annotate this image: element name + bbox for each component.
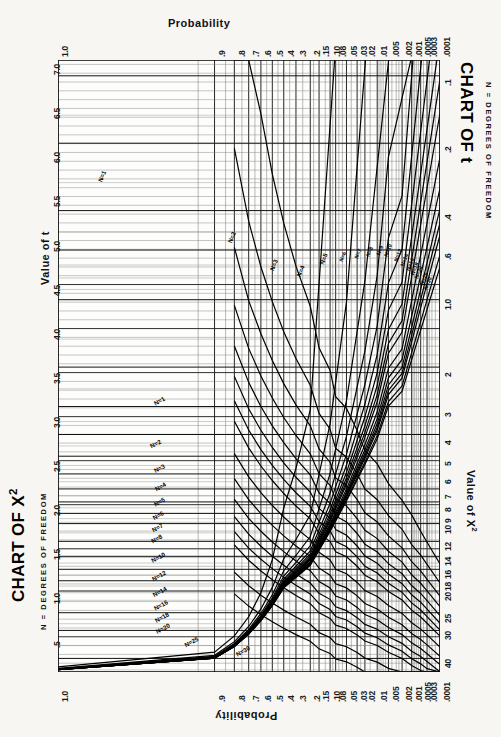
chisq-value-tick-3: .6: [444, 254, 453, 261]
t-value-tick-13: .5: [53, 641, 62, 648]
chisq-value-tick-15: 14: [444, 557, 453, 566]
grid-and-curves: N=1N=2N=3N=4N=5N=6N=7N=8N=9N=10N=12N=14N…: [58, 60, 440, 672]
chisq-value-tick-12: 9: [444, 519, 453, 523]
chisq-value-tick-4: 1.0: [444, 299, 453, 310]
chisq-probability-tick-3: .001: [415, 687, 424, 702]
chart-chisq-title-exponent: 2: [7, 488, 19, 495]
chisq-value-tick-17: 18: [444, 582, 453, 591]
t-probability-tick-6: .4: [287, 51, 296, 58]
chisq-probability-tick-13: .2: [313, 696, 322, 703]
t-probability-tick-3: .7: [252, 51, 261, 58]
t-value-tick-4: 5.0: [53, 241, 62, 252]
chisq-value-tick-5: 2: [444, 373, 453, 377]
chart-chisq-subtitle: N = DEGREES OF FREEDOM: [40, 492, 48, 630]
nomogram-page: N=1N=2N=3N=4N=5N=6N=7N=8N=9N=10N=12N=14N…: [0, 0, 501, 737]
chisq-value-axis-title-base: Value of X: [465, 470, 477, 528]
chisq-value-tick-18: 20: [444, 592, 453, 601]
chisq-value-axis-title: Value of X2: [465, 470, 478, 532]
t-probability-tick-17: .002: [405, 42, 414, 57]
t-probability-tick-11: .08: [339, 46, 348, 57]
t-value-tick-8: 3.0: [53, 417, 62, 428]
chart-t-title: CHART OF t: [458, 62, 475, 163]
chisq-probability-tick-2: .0005: [424, 682, 433, 702]
t-value-tick-6: 4.0: [53, 329, 62, 340]
t-probability-tick-9: .15: [322, 46, 331, 57]
chisq-probability-tick-4: .002: [405, 687, 414, 702]
chisq-probability-tick-20: .9: [218, 696, 227, 703]
chisq-value-tick-10: 7: [444, 494, 453, 498]
plot-area: N=1N=2N=3N=4N=5N=6N=7N=8N=9N=10N=12N=14N…: [58, 60, 440, 672]
chisq-probability-tick-11: .10: [333, 691, 342, 702]
t-probability-tick-21: .0001: [443, 37, 452, 57]
chart-chisq-title-base: CHART OF X: [9, 495, 28, 602]
t-value-tick-11: 1.5: [53, 549, 62, 560]
t-value-tick-5: 4.5: [53, 285, 62, 296]
t-probability-tick-15: .01: [380, 46, 389, 57]
chart-chisq-title: CHART OF X2: [8, 488, 27, 602]
t-value-tick-2: 6.0: [53, 153, 62, 164]
chisq-probability-tick-7: .02: [368, 691, 377, 702]
chisq-probability-tick-12: .15: [322, 691, 331, 702]
chisq-probability-tick-21: 1.0: [61, 691, 70, 702]
t-value-tick-3: 5.5: [53, 197, 62, 208]
chisq-value-tick-9: 6: [444, 479, 453, 483]
chisq-value-tick-0: .1: [444, 79, 453, 86]
chisq-probability-tick-19: .8: [238, 696, 247, 703]
t-probability-tick-1: .9: [218, 51, 227, 58]
chisq-value-tick-11: 8: [444, 507, 453, 511]
t-probability-tick-7: .3: [299, 51, 308, 58]
chisq-probability-tick-6: .01: [380, 691, 389, 702]
t-value-tick-0: 7.0: [53, 64, 62, 75]
chisq-probability-axis-title: Probability: [215, 710, 277, 721]
chisq-value-tick-13: 10: [444, 525, 453, 534]
t-probability-tick-20: .0003: [430, 37, 439, 57]
t-probability-tick-0: 1.0: [61, 46, 70, 57]
chisq-probability-tick-16: .5: [276, 696, 285, 703]
chisq-value-tick-16: 16: [444, 570, 453, 579]
t-probability-tick-14: .02: [368, 46, 377, 57]
chisq-value-tick-1: .2: [444, 147, 453, 154]
t-value-axis-title: Value of t: [40, 231, 51, 285]
chisq-value-tick-2: .4: [444, 214, 453, 221]
t-value-tick-1: 6.5: [53, 109, 62, 120]
t-value-tick-7: 3.5: [53, 373, 62, 384]
t-probability-tick-16: .005: [392, 42, 401, 57]
chisq-probability-tick-17: .6: [264, 696, 273, 703]
chisq-value-tick-8: 5: [444, 462, 453, 466]
t-probability-tick-12: .05: [350, 46, 359, 57]
chisq-probability-tick-15: .4: [287, 696, 296, 703]
chisq-value-tick-7: 4: [444, 440, 453, 444]
chisq-value-tick-14: 12: [444, 542, 453, 551]
t-probability-tick-4: .6: [264, 51, 273, 58]
t-probability-tick-2: .8: [238, 51, 247, 58]
chisq-value-tick-21: 40: [444, 660, 453, 669]
chisq-probability-tick-8: .03: [360, 691, 369, 702]
t-probability-axis-title: Probability: [168, 18, 230, 29]
t-value-tick-9: 2.5: [53, 461, 62, 472]
chisq-value-tick-20: 30: [444, 632, 453, 641]
chisq-probability-tick-5: .005: [392, 687, 401, 702]
chisq-value-axis-title-exponent: 2: [470, 528, 479, 533]
t-value-tick-12: 1.0: [53, 593, 62, 604]
chisq-probability-tick-18: .7: [252, 696, 261, 703]
t-value-tick-10: 2.0: [53, 505, 62, 516]
chisq-probability-tick-14: .3: [299, 696, 308, 703]
chisq-probability-tick-0: .0001: [443, 682, 452, 702]
t-probability-tick-5: .5: [276, 51, 285, 58]
chart-t-subtitle: N = DEGREES OF FREEDOM: [485, 82, 493, 220]
chisq-probability-tick-9: .05: [350, 691, 359, 702]
chisq-value-tick-19: 25: [444, 614, 453, 623]
chisq-value-tick-6: 3: [444, 412, 453, 416]
